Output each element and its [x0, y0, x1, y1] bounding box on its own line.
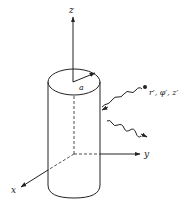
radius-label: a	[79, 83, 84, 92]
cylinder-scattering-diagram: z a y x r′, φ′, z′	[0, 0, 193, 214]
scattered-wave	[107, 120, 147, 137]
source-point-label: r′, φ′, z′	[149, 88, 178, 97]
radius-arrow	[73, 73, 95, 82]
cylinder	[48, 69, 100, 198]
z-axis-label: z	[68, 5, 74, 15]
x-axis-label: x	[11, 185, 16, 195]
y-axis-label: y	[143, 149, 150, 159]
source-point	[143, 85, 147, 89]
incident-wave	[102, 88, 142, 110]
